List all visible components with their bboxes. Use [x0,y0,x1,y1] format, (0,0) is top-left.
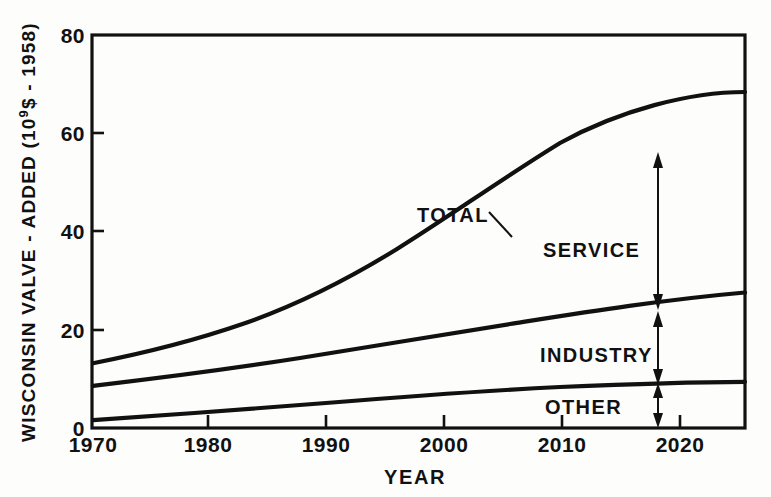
x-tick-label-1970: 1970 [69,433,118,456]
series-label-service: SERVICE [543,239,640,261]
wisconsin-value-added-line-chart: 80 60 40 20 0 1970 1980 1990 2000 2010 2… [0,0,771,497]
chart-background [0,0,771,497]
y-axis-title-exponent: 9 [16,109,31,117]
x-tick-label-2000: 2000 [420,433,469,456]
x-tick-label-1980: 1980 [184,433,233,456]
x-axis-title: YEAR [384,466,446,488]
svg-text:WISCONSIN VALVE - ADDED (109$: WISCONSIN VALVE - ADDED (109$ - 1958) [16,22,39,442]
x-tick-label-1990: 1990 [302,433,351,456]
y-tick-label-20: 20 [61,319,85,342]
y-tick-label-60: 60 [61,122,85,145]
x-tick-label-2020: 2020 [656,433,705,456]
chart-container: 80 60 40 20 0 1970 1980 1990 2000 2010 2… [0,0,771,497]
y-tick-label-40: 40 [61,220,85,243]
y-tick-label-80: 80 [61,24,85,47]
series-label-industry: INDUSTRY [540,344,653,366]
y-axis-title-suffix: $ - 1958) [18,22,39,109]
series-label-total: TOTAL [417,204,489,226]
y-axis-title-prefix: WISCONSIN VALVE - ADDED (10 [18,117,39,441]
x-tick-label-2010: 2010 [538,433,587,456]
y-axis-title: WISCONSIN VALVE - ADDED (109$ - 1958) [16,22,39,442]
series-label-other: OTHER [545,396,622,418]
